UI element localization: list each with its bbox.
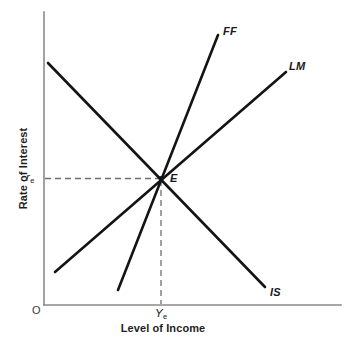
equilibrium-point-label: E [170,173,177,184]
x-axis-title: Level of Income [109,323,217,334]
ff-curve [118,35,218,290]
origin-label: O [32,305,41,316]
x-equilibrium-symbol: Y [155,307,163,319]
x-equilibrium-subscript: e [163,312,167,321]
lm-curve-label: LM [289,61,305,72]
x-equilibrium-tick-label: Ye [155,308,167,320]
equilibrium-point-marker [159,176,164,181]
is-lm-ff-diagram: FF LM IS E re Ye O Level of Income Rate … [0,0,348,348]
ff-curve-label: FF [223,26,237,37]
is-curve [48,63,265,287]
y-equilibrium-subscript: e [30,176,34,185]
is-curve-label: IS [270,287,281,298]
y-equilibrium-tick-label: re [26,172,34,184]
